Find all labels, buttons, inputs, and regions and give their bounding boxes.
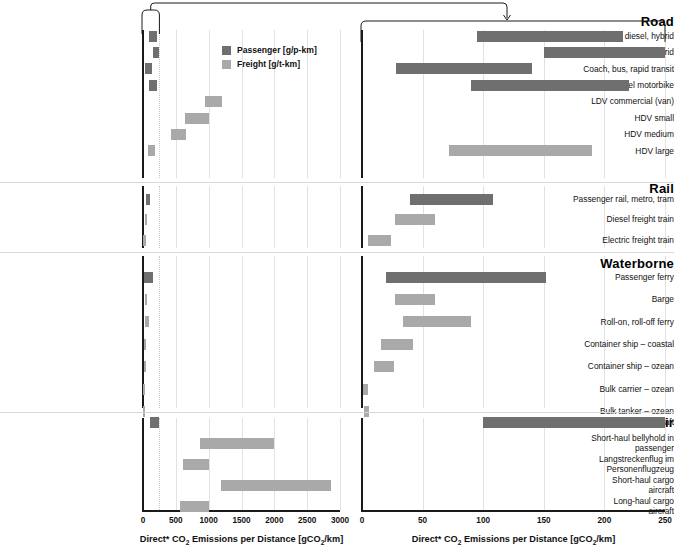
tick-left-1000: 1000 — [200, 516, 218, 525]
tick-right-200: 200 — [598, 516, 612, 525]
row-label: Short-haul bellyhold in passenger — [539, 434, 674, 453]
bar-left-panel — [183, 459, 209, 470]
tick-right-250: 250 — [658, 516, 672, 525]
row-label: HDV medium — [539, 130, 674, 140]
bar-left-panel — [150, 417, 160, 428]
tick-left-0: 0 — [141, 516, 146, 525]
tick-left-500: 500 — [169, 516, 183, 525]
chart-root: RoadLDV gasoline, diesel, hybridLDV taxi… — [0, 0, 674, 557]
gridline-left-2500 — [307, 256, 308, 408]
gridline-left-1500 — [242, 256, 243, 408]
bar-left-panel — [146, 194, 150, 205]
bar-left-panel — [143, 235, 145, 246]
gridline-left-1000 — [209, 256, 210, 408]
legend-label-passenger: Passenger [g/p-km] — [237, 45, 317, 55]
bar-left-panel — [145, 63, 152, 74]
row-label: Diesel freight train — [539, 215, 674, 225]
gridline-right-50 — [423, 418, 424, 510]
bar-left-panel — [144, 361, 146, 372]
row-label: Container ship – coastal — [539, 340, 674, 350]
bar-left-panel — [149, 31, 157, 42]
bar-left-panel — [145, 294, 147, 305]
row-label: LDV commercial (van) — [539, 97, 674, 107]
bar-right-panel — [368, 235, 391, 246]
gridline-left-3000 — [340, 186, 341, 248]
bar-right-panel — [449, 145, 592, 156]
zoom-region-marker-0 — [159, 30, 160, 178]
row-label: Bulk carrier – ozean — [539, 385, 674, 395]
bar-left-panel — [143, 384, 145, 395]
gridline-left-2000 — [274, 186, 275, 248]
row-label: HDV small — [539, 114, 674, 124]
bar-left-panel — [185, 113, 209, 124]
gridline-left-500 — [176, 256, 177, 408]
zoom-region-marker-3 — [159, 418, 160, 510]
bar-left-panel — [153, 47, 160, 58]
row-label: Barge — [539, 295, 674, 305]
tick-right-100: 100 — [476, 516, 490, 525]
tick-left-2500: 2500 — [298, 516, 316, 525]
tick-right-0: 0 — [360, 516, 365, 525]
bar-left-panel — [144, 339, 146, 350]
zoom-region-marker-2 — [159, 256, 160, 408]
bar-right-panel — [396, 63, 532, 74]
row-label: Long-haul cargo aircraft — [539, 497, 674, 516]
bar-left-panel — [145, 316, 149, 327]
row-label: Coach, bus, rapid transit — [539, 65, 674, 75]
group-separator-0 — [0, 182, 674, 183]
bar-left-panel — [180, 501, 208, 512]
legend: Passenger [g/p-km]Freight [g/t-km] — [222, 45, 317, 73]
gridline-right-50 — [423, 30, 424, 178]
axis-title-right: Direct* CO2 Emissions per Distance [gCO2… — [412, 534, 615, 546]
legend-swatch-freight — [222, 60, 231, 69]
bar-right-panel — [483, 417, 665, 428]
tick-left-1500: 1500 — [232, 516, 250, 525]
right-panel-axis-group-3 — [361, 418, 363, 510]
bar-left-panel — [200, 438, 274, 449]
bar-right-panel — [374, 361, 393, 372]
row-label: Passenger rail, metro, tram — [539, 195, 674, 205]
bar-right-panel — [477, 31, 622, 42]
bar-right-panel — [386, 272, 546, 283]
zoom-region-marker-1 — [159, 186, 160, 248]
left-panel-axis-group-0 — [142, 30, 144, 178]
gridline-left-500 — [176, 186, 177, 248]
row-label: Short-haul cargo aircraft — [539, 476, 674, 495]
axis-title-left: Direct* CO2 Emissions per Distance [gCO2… — [140, 534, 343, 546]
section-label-waterborne: Waterborne — [541, 256, 674, 271]
row-label: Passenger ferry — [539, 273, 674, 283]
gridline-left-1500 — [242, 418, 243, 510]
bar-right-panel — [395, 214, 435, 225]
bar-right-panel — [410, 194, 492, 205]
group-separator-2 — [0, 412, 674, 413]
gridline-left-2000 — [274, 256, 275, 408]
tick-left-2000: 2000 — [265, 516, 283, 525]
bar-right-panel — [403, 316, 471, 327]
bar-right-panel — [381, 339, 413, 350]
gridline-left-500 — [176, 30, 177, 178]
gridline-left-1000 — [209, 418, 210, 510]
left-panel-axis-group-3 — [142, 418, 144, 510]
legend-label-freight: Freight [g/t-km] — [237, 59, 300, 69]
gridline-left-2500 — [307, 418, 308, 510]
bar-left-panel — [144, 272, 153, 283]
right-panel-axis-group-0 — [361, 30, 363, 178]
gridline-left-3000 — [340, 256, 341, 408]
legend-item-passenger: Passenger [g/p-km] — [222, 45, 317, 55]
bar-left-panel — [171, 129, 186, 140]
left-panel-baseline — [142, 510, 340, 512]
gridline-left-3000 — [340, 418, 341, 510]
group-separator-1 — [0, 252, 674, 253]
legend-item-freight: Freight [g/t-km] — [222, 59, 317, 69]
bar-left-panel — [221, 480, 331, 491]
gridline-right-100 — [483, 418, 484, 510]
section-label-road: Road — [541, 14, 674, 29]
bar-right-panel — [544, 47, 665, 58]
row-label: Roll-on, roll-off ferry — [539, 318, 674, 328]
bar-left-panel — [145, 214, 147, 225]
right-panel-axis-group-1 — [361, 186, 363, 248]
bar-left-panel — [205, 96, 221, 107]
tick-right-50: 50 — [418, 516, 427, 525]
tick-left-3000: 3000 — [331, 516, 349, 525]
gridline-left-1500 — [242, 186, 243, 248]
